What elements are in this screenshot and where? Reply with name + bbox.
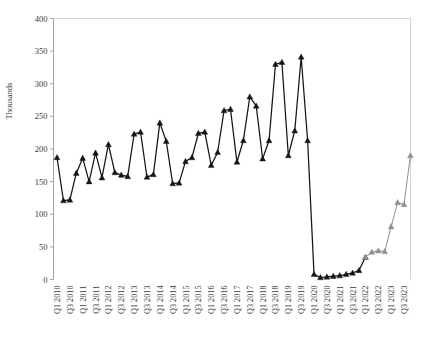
data-point-marker — [73, 170, 79, 175]
y-tick-label: 150 — [35, 177, 48, 187]
x-tick-label: Q3 2022 — [374, 286, 383, 314]
data-point-marker — [311, 271, 317, 276]
x-tick-label: Q3 2010 — [66, 286, 75, 314]
data-point-marker — [163, 138, 169, 143]
data-point-marker — [189, 154, 195, 159]
data-point-marker — [93, 150, 99, 155]
x-tick-label: Q1 2021 — [336, 286, 345, 314]
x-tick-label: Q3 2023 — [400, 286, 409, 314]
x-tick-label: Q3 2020 — [323, 286, 332, 314]
y-tick-label: 250 — [35, 111, 48, 121]
x-tick-label: Q3 2021 — [349, 286, 358, 314]
data-point-marker — [80, 155, 86, 160]
y-tick-label: 200 — [35, 144, 48, 154]
x-tick-label: Q1 2019 — [284, 286, 293, 314]
x-tick-label: Q3 2011 — [92, 286, 101, 314]
x-tick-label: Q1 2011 — [79, 286, 88, 314]
x-tick-label: Q1 2013 — [130, 286, 139, 314]
data-point-marker — [298, 54, 304, 59]
x-tick-label: Q1 2010 — [53, 286, 62, 314]
line-chart: 050100150200250300350400ThousandsQ1 2010… — [0, 0, 426, 340]
data-point-marker — [240, 137, 246, 142]
data-point-marker — [395, 199, 401, 204]
data-point-marker — [202, 129, 208, 134]
series-2 — [363, 152, 414, 259]
x-tick-label: Q3 2016 — [220, 286, 229, 314]
data-point-marker — [99, 175, 105, 180]
data-point-marker — [234, 159, 240, 164]
x-tick-label: Q1 2023 — [387, 286, 396, 314]
data-point-marker — [150, 171, 156, 176]
x-tick-label: Q3 2017 — [246, 286, 255, 314]
series-1 — [54, 54, 368, 280]
x-tick-label: Q3 2014 — [169, 286, 178, 314]
data-point-marker — [106, 141, 112, 146]
y-tick-label: 50 — [39, 242, 48, 252]
data-point-marker — [260, 156, 266, 161]
data-point-marker — [157, 120, 163, 125]
x-tick-label: Q3 2018 — [271, 286, 280, 314]
x-axis: Q1 2010Q3 2010Q1 2011Q3 2011Q1 2012Q3 20… — [53, 286, 409, 314]
data-point-marker — [375, 248, 381, 253]
x-tick-label: Q3 2013 — [143, 286, 152, 314]
data-point-marker — [285, 152, 291, 157]
data-point-marker — [86, 179, 92, 184]
data-point-marker — [208, 162, 214, 167]
x-tick-label: Q1 2015 — [182, 286, 191, 314]
x-tick-label: Q1 2018 — [259, 286, 268, 314]
data-point-marker — [112, 169, 118, 174]
y-tick-label: 400 — [35, 14, 48, 24]
data-point-marker — [408, 152, 414, 157]
data-point-marker — [228, 106, 234, 111]
data-point-marker — [215, 149, 221, 154]
data-point-marker — [305, 137, 311, 142]
x-tick-label: Q1 2020 — [310, 286, 319, 314]
y-tick-label: 300 — [35, 79, 48, 89]
x-tick-label: Q1 2014 — [156, 286, 165, 314]
y-tick-label: 100 — [35, 209, 48, 219]
data-point-marker — [292, 128, 298, 133]
y-tick-label: 350 — [35, 46, 48, 56]
x-tick-label: Q3 2015 — [194, 286, 203, 314]
x-tick-label: Q1 2017 — [233, 286, 242, 314]
data-point-marker — [356, 267, 362, 272]
x-tick-label: Q1 2016 — [207, 286, 216, 314]
data-point-marker — [54, 154, 60, 159]
data-point-marker — [266, 137, 272, 142]
x-tick-label: Q1 2022 — [361, 286, 370, 314]
x-tick-label: Q3 2012 — [117, 286, 126, 314]
x-tick-label: Q1 2012 — [104, 286, 113, 314]
svg-text:Thousands: Thousands — [4, 83, 14, 120]
y-tick-label: 0 — [43, 275, 47, 285]
data-point-marker — [279, 59, 285, 64]
x-tick-label: Q3 2019 — [297, 286, 306, 314]
data-point-marker — [388, 224, 394, 229]
data-point-marker — [183, 158, 189, 163]
chart-container: 050100150200250300350400ThousandsQ1 2010… — [0, 0, 426, 340]
data-point-marker — [247, 94, 253, 99]
y-axis: 050100150200250300350400 — [35, 14, 54, 285]
y-axis-title: Thousands — [4, 83, 14, 120]
data-point-marker — [138, 129, 144, 134]
